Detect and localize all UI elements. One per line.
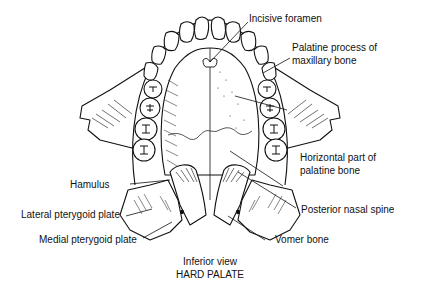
left-pterygoid-plates [120, 180, 182, 240]
label-vomer-bone: Vomer bone [275, 234, 329, 246]
label-hamulus: Hamulus [70, 179, 109, 191]
right-pterygoid-plates [238, 180, 300, 240]
label-palatine-process-line2: maxillary bone [292, 55, 356, 67]
label-posterior-nasal-spine: Posterior nasal spine [301, 204, 394, 216]
label-incisive-foramen: Incisive foramen [249, 13, 322, 25]
label-horizontal-part-line2: palatine bone [300, 165, 360, 177]
label-horizontal-part-line1: Horizontal part of [300, 152, 376, 164]
label-medial-pterygoid-plate: Medial pterygoid plate [39, 234, 137, 246]
caption-subtitle: Inferior view [150, 255, 270, 268]
caption-title: HARD PALATE [150, 268, 270, 281]
label-lateral-pterygoid-plate: Lateral pterygoid plate [21, 209, 120, 221]
label-palatine-process-line1: Palatine process of [292, 42, 377, 54]
